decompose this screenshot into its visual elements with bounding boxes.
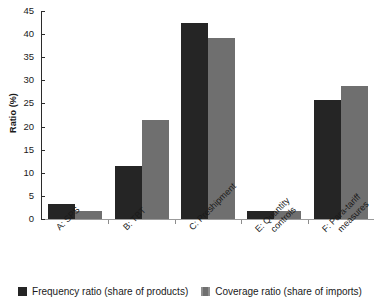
bar-group — [42, 11, 108, 219]
chart-legend: Frequency ratio (share of products)Cover… — [0, 286, 380, 297]
legend-swatch-coverage-ratio — [201, 287, 210, 296]
y-axis-tick-label: 15 — [1, 144, 41, 155]
y-axis-tick-label: 25 — [1, 97, 41, 108]
y-axis-tick-label: 45 — [1, 5, 41, 16]
y-axis-tick-label: 35 — [1, 51, 41, 62]
bar-pair — [308, 11, 374, 219]
legend-label: Coverage ratio (share of imports) — [215, 286, 362, 297]
y-axis-tick-label: 0 — [1, 213, 41, 224]
legend-label: Frequency ratio (share of products) — [32, 286, 188, 297]
y-axis-tick-label: 20 — [1, 121, 41, 132]
bar-group — [241, 11, 307, 219]
bar-frequency-ratio — [314, 100, 341, 219]
y-axis-tick-label: 40 — [1, 28, 41, 39]
y-axis-tick-label: 10 — [1, 167, 41, 178]
bar-group — [308, 11, 374, 219]
bar-pair — [108, 11, 174, 219]
bar-group-container — [42, 11, 374, 220]
bar-pair — [42, 11, 108, 219]
bar-group — [108, 11, 174, 219]
bar-frequency-ratio — [181, 23, 208, 219]
bar-coverage-ratio — [142, 120, 169, 219]
legend-item: Frequency ratio (share of products) — [18, 286, 188, 297]
legend-item: Coverage ratio (share of imports) — [201, 286, 362, 297]
y-axis-tick-label: 30 — [1, 74, 41, 85]
bar-pair — [241, 11, 307, 219]
bar-chart-figure: Ratio (%) 454035302520151050 A: SPSB: TB… — [0, 0, 380, 305]
legend-swatch-frequency-ratio — [18, 287, 27, 296]
x-axis-label-group: A: SPSB: TBTC: PreshipmentE: Quantitycon… — [41, 220, 374, 282]
plot-area: 454035302520151050 — [41, 11, 374, 220]
y-axis-tick-label: 5 — [1, 190, 41, 201]
